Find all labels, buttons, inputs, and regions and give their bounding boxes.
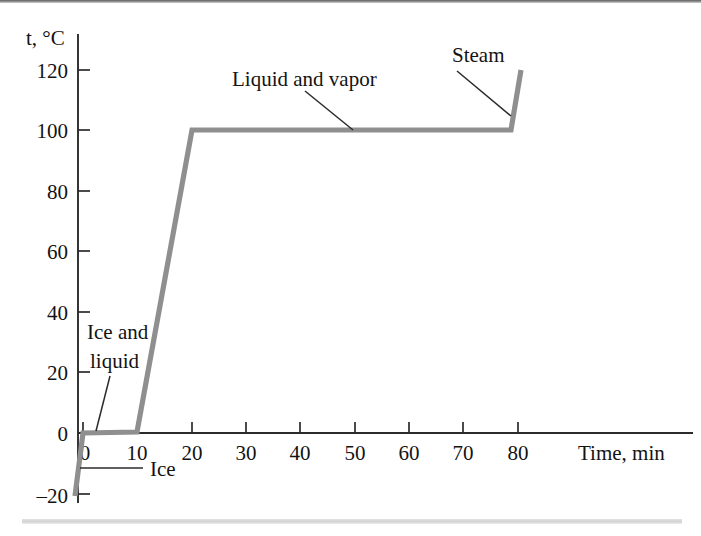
y-axis-title: t, °C [26, 26, 65, 50]
x-tick-label-10: 10 [127, 441, 148, 465]
y-tick-label-minus20: –20 [36, 484, 69, 508]
annotation-label-ice-and-liquid-line2: liquid [90, 349, 140, 373]
x-axis-ticks [83, 422, 518, 433]
x-tick-label-70: 70 [453, 441, 474, 465]
y-tick-label-100: 100 [37, 119, 69, 143]
x-tick-label-50: 50 [345, 441, 366, 465]
y-axis-tick-labels: 120 100 80 60 40 20 0 –20 [36, 59, 69, 508]
y-tick-label-80: 80 [47, 180, 68, 204]
annotation-label-ice-and-liquid-line1: Ice and [87, 320, 149, 344]
x-axis-tick-labels: 0 10 20 30 40 50 60 70 80 [80, 441, 529, 465]
y-tick-label-0: 0 [58, 422, 69, 446]
ice-and-liquid-leader-line [96, 376, 110, 431]
x-tick-label-20: 20 [182, 441, 203, 465]
x-axis-title: Time, min [578, 441, 665, 465]
heating-curve-chart: 120 100 80 60 40 20 0 –20 0 10 20 30 [0, 0, 701, 536]
liquid-and-vapor-leader-line [305, 91, 353, 130]
x-tick-label-30: 30 [236, 441, 257, 465]
y-tick-label-20: 20 [47, 361, 68, 385]
figure-root: 120 100 80 60 40 20 0 –20 0 10 20 30 [0, 0, 701, 536]
y-tick-label-60: 60 [47, 240, 68, 264]
x-tick-label-40: 40 [290, 441, 311, 465]
annotation-label-steam: Steam [452, 43, 505, 67]
y-tick-label-40: 40 [47, 301, 68, 325]
steam-leader-line [457, 71, 511, 116]
y-tick-label-120: 120 [37, 59, 69, 83]
x-tick-label-80: 80 [508, 441, 529, 465]
annotation-label-ice: Ice [150, 457, 176, 481]
axes-group [78, 34, 693, 503]
x-tick-label-60: 60 [399, 441, 420, 465]
annotation-label-liquid-and-vapor: Liquid and vapor [232, 67, 377, 91]
